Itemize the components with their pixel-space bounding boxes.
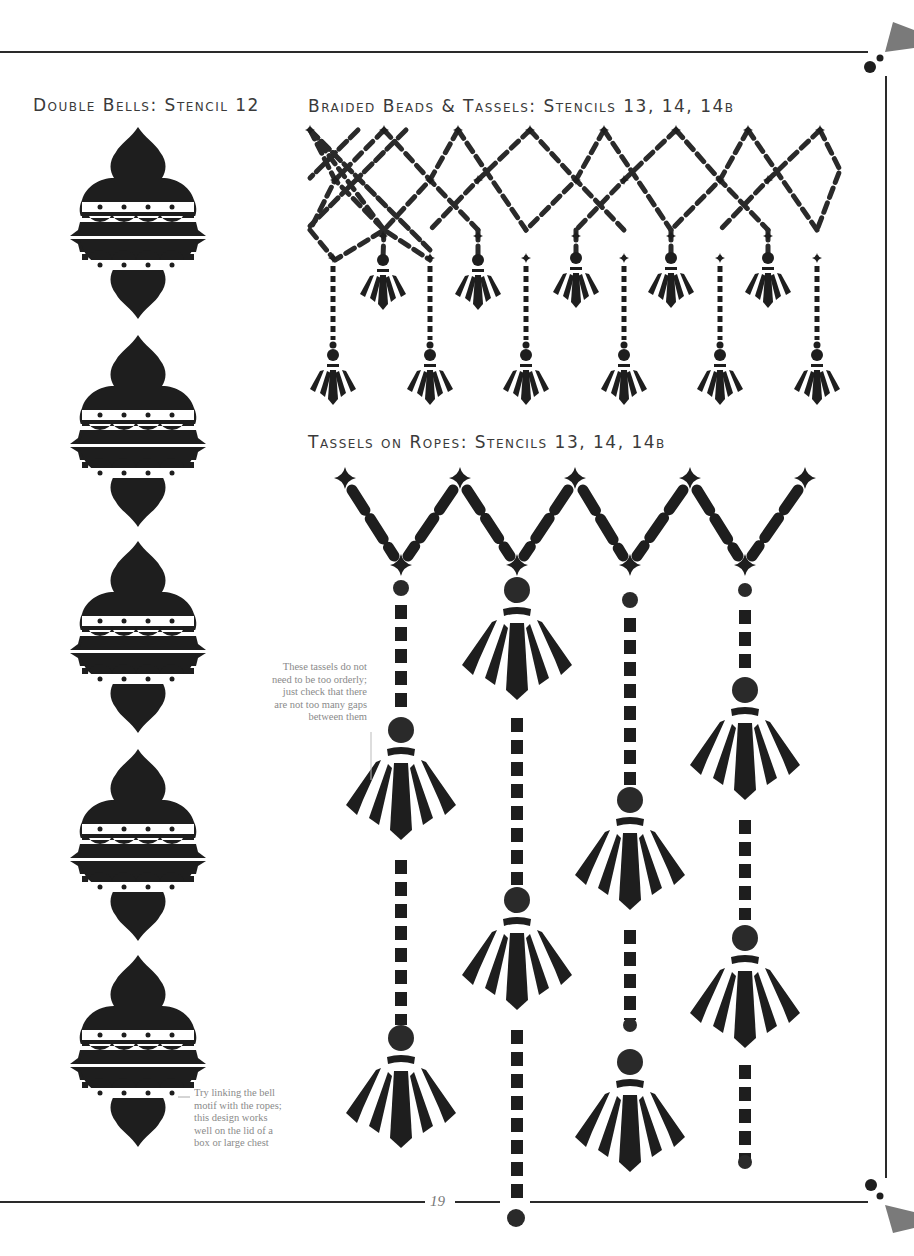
rope-v-chains	[352, 490, 798, 556]
braided-long-tassels	[310, 342, 840, 406]
tassel	[745, 252, 791, 308]
top-corner-ornament	[864, 22, 914, 73]
tassel	[648, 252, 694, 308]
large-tassel	[575, 787, 685, 910]
large-tassel	[462, 577, 572, 700]
large-tassel	[690, 925, 800, 1048]
large-tassel	[690, 677, 800, 800]
bottom-corner-ornament	[865, 1179, 914, 1233]
large-tassel	[575, 1049, 685, 1172]
bell-motif	[68, 955, 208, 1147]
double-bells-column	[68, 127, 208, 1147]
large-tassel	[346, 717, 456, 840]
tassel	[553, 252, 599, 308]
large-tassel	[346, 1025, 456, 1148]
page-artwork: (function(){ var g=document.getElementBy…	[0, 0, 914, 1256]
rope-beads	[393, 580, 752, 1227]
tassel	[360, 254, 406, 310]
bell-motif	[68, 335, 208, 527]
bell-motif	[68, 127, 208, 319]
braided-short-tassels	[360, 252, 791, 310]
tassel	[455, 254, 501, 310]
bell-motif	[68, 541, 208, 733]
large-tassel	[462, 887, 572, 1010]
rope-tassels	[346, 577, 800, 1172]
bell-motif	[68, 749, 208, 941]
